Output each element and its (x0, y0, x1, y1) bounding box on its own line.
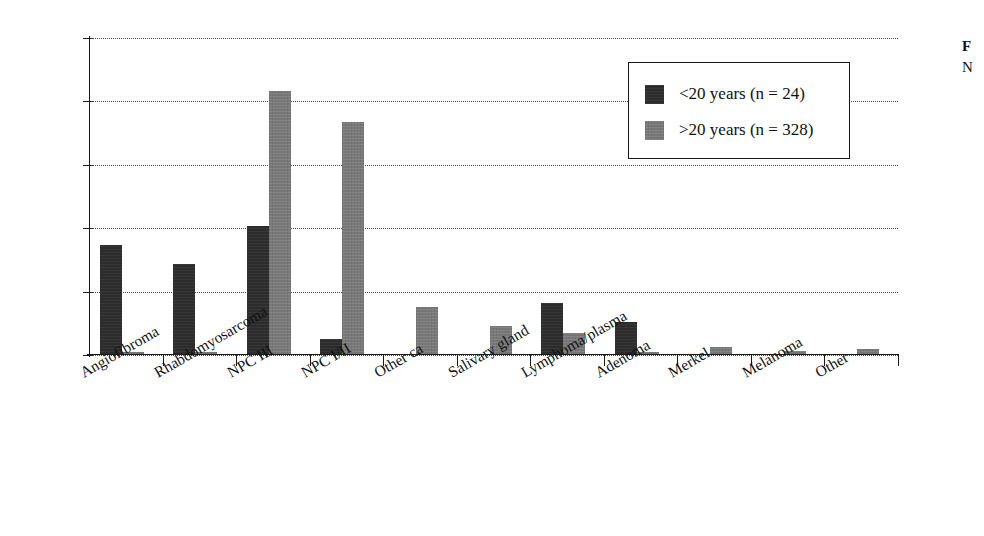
legend-item-old: >20 years (n = 328) (645, 112, 849, 148)
figure-caption-stub: F N (962, 36, 984, 78)
caption-lead: F (962, 36, 984, 57)
gridline-10 (89, 292, 898, 293)
bar (247, 226, 269, 355)
caption-second-line: N (962, 57, 984, 78)
y-axis-line (89, 36, 90, 357)
bar (100, 245, 122, 355)
gridline-50 (89, 38, 898, 39)
bar (269, 91, 291, 355)
legend-swatch-under20 (645, 85, 664, 104)
legend-item-young: <20 years (n = 24) (645, 76, 849, 112)
x-tick-mark (898, 355, 899, 366)
y-axis-labels: 0%10%20%30%40%50% (0, 0, 84, 536)
legend-swatch-over20 (645, 121, 664, 140)
bar (342, 122, 364, 355)
figure-chart: 0%10%20%30%40%50% AngiofibromaRhabdomyos… (0, 0, 984, 536)
legend: <20 years (n = 24) >20 years (n = 328) (628, 62, 850, 159)
legend-label-over20: >20 years (n = 328) (679, 120, 813, 140)
gridline-30 (89, 165, 898, 166)
gridline-20 (89, 228, 898, 229)
legend-label-under20: <20 years (n = 24) (679, 84, 805, 104)
